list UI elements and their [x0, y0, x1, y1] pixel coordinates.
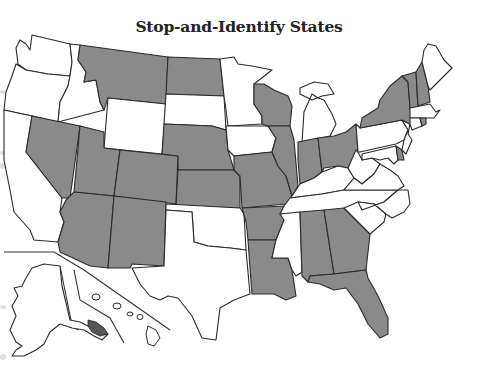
state-florida [308, 270, 388, 338]
state-kansas [176, 170, 240, 208]
state-new-mexico [108, 196, 166, 268]
state-wyoming [104, 98, 166, 154]
state-new-york [360, 76, 412, 128]
us-map [0, 0, 478, 383]
state-iowa [226, 126, 276, 156]
state-north-dakota [166, 57, 224, 96]
state-michigan [300, 82, 336, 142]
state-arizona [58, 192, 114, 268]
state-colorado [114, 150, 178, 204]
state-alaska [10, 264, 108, 356]
